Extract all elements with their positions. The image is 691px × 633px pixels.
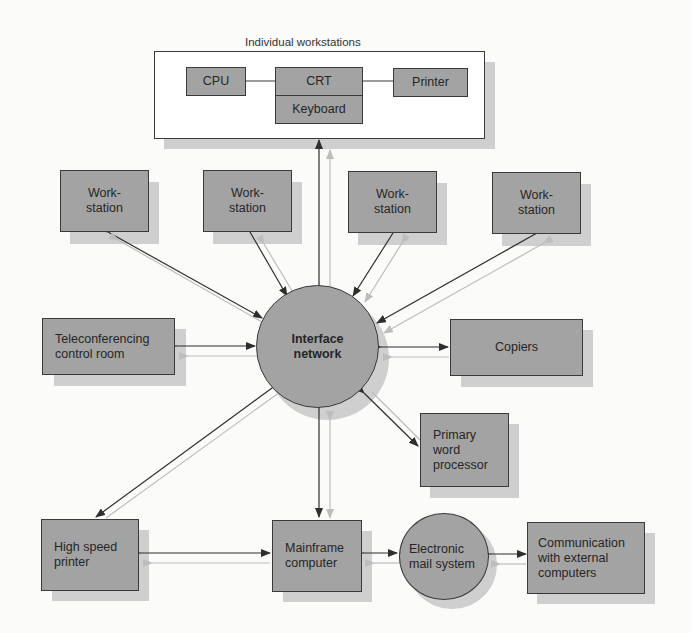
hub-label: Interface network [291, 332, 343, 362]
interface-network-hub: Interface network [256, 285, 379, 408]
workstation-1-label: Work- station [86, 186, 123, 216]
high-speed-printer-label: High speed printer [54, 540, 117, 570]
workstation-4: Work- station [492, 172, 581, 234]
high-speed-printer-box: High speed printer [41, 519, 139, 591]
teleconferencing-label: Teleconferencing control room [55, 332, 150, 362]
email-label: Electronic mail system [409, 542, 475, 572]
word-processor-box: Primary word processor [420, 413, 509, 487]
office-network-diagram: Individual workstations CPU CRT Keyboard… [0, 0, 691, 633]
teleconferencing-box: Teleconferencing control room [42, 318, 175, 375]
email-system-circle: Electronic mail system [399, 513, 489, 600]
copiers-label: Copiers [495, 340, 538, 355]
mainframe-box: Mainframe computer [272, 520, 362, 592]
workstation-2-label: Work- station [229, 186, 266, 216]
external-label: Communication with external computers [538, 536, 625, 581]
external-communication-box: Communication with external computers [527, 522, 645, 594]
workstation-2: Work- station [203, 170, 292, 232]
workstation-3: Work- station [348, 171, 437, 233]
workstation-3-label: Work- station [374, 187, 411, 217]
word-processor-label: Primary word processor [433, 428, 488, 473]
mainframe-label: Mainframe computer [285, 541, 344, 571]
copiers-box: Copiers [450, 319, 583, 376]
workstation-4-label: Work- station [518, 188, 555, 218]
workstation-1: Work- station [60, 170, 149, 232]
